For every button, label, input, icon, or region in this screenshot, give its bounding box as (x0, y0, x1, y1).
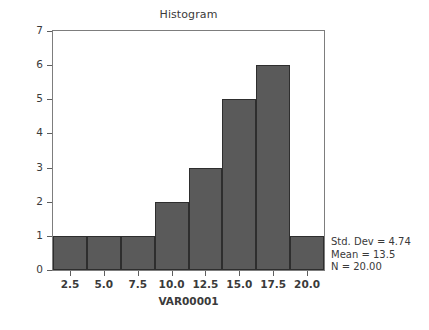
histogram-bar (53, 236, 87, 270)
stat-std-dev: Std. Dev = 4.74 (331, 236, 427, 249)
x-axis-tick-label: 12.5 (192, 278, 218, 290)
histogram-bar (256, 65, 290, 270)
x-axis-tick-label: 10.0 (159, 278, 185, 290)
x-axis-tick-mark (172, 271, 173, 276)
x-axis-tick-label: 5.0 (95, 278, 114, 290)
x-axis-tick-mark (307, 271, 308, 276)
histogram-bar (87, 236, 121, 270)
histogram-bar (222, 99, 256, 270)
histogram-bar (290, 236, 324, 270)
y-axis-tick-label: 3 (36, 161, 43, 173)
x-axis-tick-mark (138, 271, 139, 276)
x-axis-tick-mark (273, 271, 274, 276)
y-axis-tick-label: 1 (36, 229, 43, 241)
x-axis-tick-mark (104, 271, 105, 276)
x-axis-tick-label: 17.5 (260, 278, 286, 290)
y-axis-tick-label: 5 (36, 92, 43, 104)
y-axis-tick-label: 0 (36, 263, 43, 275)
x-axis-tick-label: 15.0 (226, 278, 252, 290)
y-axis-tick-label: 2 (36, 195, 43, 207)
histogram-bar (121, 236, 155, 270)
y-axis-tick-group: 01234567 (0, 30, 52, 271)
histogram-bar (189, 168, 223, 270)
y-axis-tick-label: 4 (36, 126, 43, 138)
x-axis-tick-label: 2.5 (61, 278, 80, 290)
statistics-annotation: Std. Dev = 4.74 Mean = 13.5 N = 20.00 (331, 236, 427, 274)
x-axis-tick-label: 20.0 (294, 278, 320, 290)
chart-title: Histogram (52, 8, 325, 21)
bar-group (53, 31, 324, 270)
x-axis-title: VAR00001 (52, 295, 325, 307)
x-axis-tick-label: 7.5 (128, 278, 147, 290)
histogram-figure: Histogram Frequency 01234567 2.55.07.510… (0, 0, 429, 330)
y-axis-tick-label: 6 (36, 58, 43, 70)
x-axis-tick-mark (239, 271, 240, 276)
stat-mean: Mean = 13.5 (331, 249, 427, 262)
histogram-bar (155, 202, 189, 270)
plot-area (53, 31, 324, 270)
y-axis-tick-label: 7 (36, 24, 43, 36)
stat-n: N = 20.00 (331, 261, 427, 274)
x-axis-tick-mark (205, 271, 206, 276)
x-axis-tick-group: 2.55.07.510.012.515.017.520.0 (53, 271, 324, 293)
x-axis-tick-mark (70, 271, 71, 276)
